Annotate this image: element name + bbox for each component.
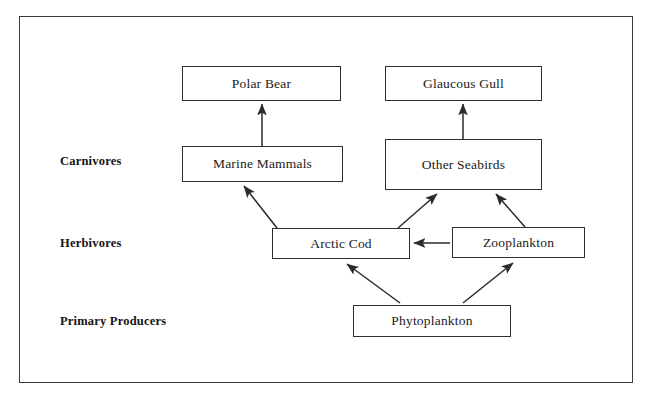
food-web-diagram: Polar Bear Glaucous Gull Marine Mammals … bbox=[0, 0, 652, 408]
node-other-seabirds[interactable]: Other Seabirds bbox=[385, 139, 542, 190]
arrow-layer bbox=[0, 0, 652, 408]
edge-phytoplankton-to-arctic-cod bbox=[347, 264, 400, 303]
node-label-marine-mammals: Marine Mammals bbox=[213, 157, 312, 171]
node-glaucous-gull[interactable]: Glaucous Gull bbox=[385, 66, 542, 101]
node-label-zooplankton: Zooplankton bbox=[483, 236, 554, 250]
node-label-other-seabirds: Other Seabirds bbox=[422, 158, 505, 172]
tier-label-carnivores: Carnivores bbox=[60, 154, 122, 169]
node-label-polar-bear: Polar Bear bbox=[232, 77, 291, 91]
node-zooplankton[interactable]: Zooplankton bbox=[452, 227, 585, 258]
tier-label-herbivores: Herbivores bbox=[60, 236, 121, 251]
tier-label-primary-producers: Primary Producers bbox=[60, 314, 166, 329]
edge-zooplankton-to-other-seabirds bbox=[496, 194, 525, 227]
edge-arctic-cod-to-other-seabirds bbox=[398, 194, 437, 228]
node-label-phytoplankton: Phytoplankton bbox=[391, 314, 472, 328]
node-label-arctic-cod: Arctic Cod bbox=[310, 237, 372, 251]
edge-arctic-cod-to-marine-mammals bbox=[244, 186, 277, 228]
node-marine-mammals[interactable]: Marine Mammals bbox=[182, 146, 343, 182]
node-label-glaucous-gull: Glaucous Gull bbox=[423, 77, 504, 91]
edge-phytoplankton-to-zooplankton bbox=[463, 263, 513, 303]
node-phytoplankton[interactable]: Phytoplankton bbox=[353, 305, 511, 337]
node-arctic-cod[interactable]: Arctic Cod bbox=[272, 228, 410, 259]
node-polar-bear[interactable]: Polar Bear bbox=[182, 66, 341, 101]
